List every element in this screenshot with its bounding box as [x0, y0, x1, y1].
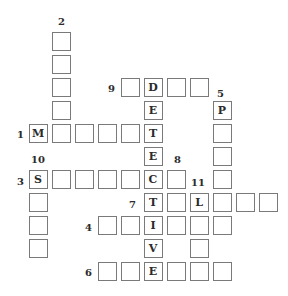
- clue-number-label: 3: [17, 177, 24, 187]
- crossword-cell[interactable]: [190, 78, 209, 97]
- crossword-cell[interactable]: [213, 262, 232, 281]
- clue-number-label: 4: [85, 223, 92, 233]
- crossword-board: DEPMTESCTLIVE2951108311746: [0, 0, 288, 296]
- crossword-cell[interactable]: [259, 193, 278, 212]
- crossword-cell[interactable]: [52, 124, 71, 143]
- clue-number-label: 11: [191, 178, 205, 188]
- clue-number-label: 1: [17, 130, 24, 140]
- crossword-cell[interactable]: [190, 216, 209, 235]
- clue-number-label: 8: [174, 155, 181, 165]
- crossword-cell[interactable]: [213, 147, 232, 166]
- crossword-cell[interactable]: P: [213, 101, 232, 120]
- crossword-cell[interactable]: [167, 262, 186, 281]
- crossword-cell[interactable]: [52, 55, 71, 74]
- crossword-cell[interactable]: [190, 239, 209, 258]
- crossword-cell[interactable]: [29, 216, 48, 235]
- crossword-cell[interactable]: [167, 78, 186, 97]
- crossword-cell[interactable]: [121, 262, 140, 281]
- crossword-cell[interactable]: [121, 216, 140, 235]
- crossword-cell[interactable]: [121, 124, 140, 143]
- crossword-cell[interactable]: V: [144, 239, 163, 258]
- crossword-cell[interactable]: [98, 124, 117, 143]
- crossword-cell[interactable]: E: [144, 101, 163, 120]
- crossword-cell[interactable]: [52, 78, 71, 97]
- crossword-cell[interactable]: [98, 262, 117, 281]
- crossword-cell[interactable]: [29, 239, 48, 258]
- crossword-cell[interactable]: [29, 193, 48, 212]
- crossword-cell[interactable]: [52, 32, 71, 51]
- crossword-cell[interactable]: [75, 170, 94, 189]
- clue-number-label: 5: [217, 89, 224, 99]
- crossword-cell[interactable]: [121, 170, 140, 189]
- crossword-cell[interactable]: [213, 216, 232, 235]
- clue-number-label: 2: [58, 17, 65, 27]
- crossword-cell[interactable]: T: [144, 193, 163, 212]
- crossword-cell[interactable]: D: [144, 78, 163, 97]
- crossword-cell[interactable]: [52, 101, 71, 120]
- crossword-cell[interactable]: [98, 216, 117, 235]
- crossword-cell[interactable]: [75, 124, 94, 143]
- crossword-cell[interactable]: [190, 262, 209, 281]
- crossword-cell[interactable]: S: [29, 170, 48, 189]
- crossword-cell[interactable]: [167, 216, 186, 235]
- crossword-cell[interactable]: L: [190, 193, 209, 212]
- crossword-cell[interactable]: [213, 193, 232, 212]
- crossword-cell[interactable]: [167, 193, 186, 212]
- clue-number-label: 10: [31, 155, 45, 165]
- crossword-cell[interactable]: [98, 170, 117, 189]
- crossword-cell[interactable]: E: [144, 262, 163, 281]
- clue-number-label: 7: [129, 200, 136, 210]
- crossword-cell[interactable]: M: [29, 124, 48, 143]
- crossword-cell[interactable]: E: [144, 147, 163, 166]
- crossword-cell[interactable]: [121, 78, 140, 97]
- crossword-cell[interactable]: [213, 170, 232, 189]
- clue-number-label: 9: [108, 84, 115, 94]
- crossword-cell[interactable]: [236, 193, 255, 212]
- crossword-cell[interactable]: [213, 124, 232, 143]
- crossword-cell[interactable]: [52, 170, 71, 189]
- clue-number-label: 6: [85, 268, 92, 278]
- crossword-cell[interactable]: I: [144, 216, 163, 235]
- crossword-cell[interactable]: T: [144, 124, 163, 143]
- crossword-cell[interactable]: C: [144, 170, 163, 189]
- crossword-cell[interactable]: [167, 170, 186, 189]
